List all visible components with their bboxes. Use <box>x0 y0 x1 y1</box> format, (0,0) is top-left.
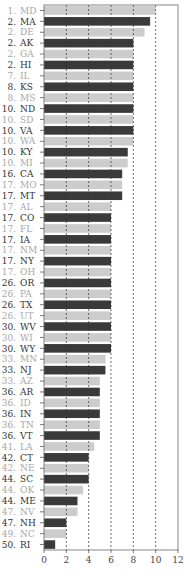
rank-label: 17. <box>2 256 16 266</box>
state-label: WV <box>20 322 36 332</box>
state-label: NC <box>20 529 35 539</box>
state-label: MO <box>20 180 37 190</box>
rank-label: 41. <box>2 442 16 452</box>
rank-label: 10. <box>2 136 16 146</box>
bar-vt <box>44 431 100 440</box>
rank-label: 44. <box>2 485 16 495</box>
rank-label: 36. <box>2 431 16 441</box>
state-label: VA <box>19 126 33 136</box>
state-label: RI <box>20 540 31 550</box>
rank-label: 10. <box>2 147 16 157</box>
state-label: SD <box>20 115 33 125</box>
state-label: NY <box>20 256 35 266</box>
bar-in <box>44 409 100 418</box>
state-label: WA <box>20 136 36 146</box>
state-label: NV <box>20 507 35 517</box>
rank-label: 42. <box>2 463 16 473</box>
bar-al <box>44 202 111 211</box>
bar-tx <box>44 300 111 309</box>
state-label: ME <box>20 496 36 506</box>
state-label: KY <box>20 147 33 157</box>
bar-mt <box>44 191 122 200</box>
bar-nj <box>44 366 105 375</box>
bar-ma <box>44 17 150 26</box>
bar-ar <box>44 388 100 397</box>
state-label: AL <box>19 202 32 212</box>
state-label: MN <box>20 354 37 364</box>
bar-nh <box>44 518 66 527</box>
rank-label: 30. <box>2 333 16 343</box>
bar-mo <box>44 181 122 190</box>
rank-label: 49. <box>2 529 16 539</box>
state-label: KS <box>20 82 33 92</box>
rank-label: 17. <box>2 245 16 255</box>
bar-me <box>44 497 78 506</box>
state-label: DE <box>20 27 34 37</box>
state-label: MA <box>20 17 36 27</box>
state-label: FL <box>20 224 32 234</box>
bar-az <box>44 377 100 386</box>
state-label: NE <box>20 463 34 473</box>
rank-label: 44. <box>2 474 16 484</box>
state-label: SC <box>20 474 33 484</box>
rank-label: 2. <box>7 17 16 27</box>
rank-label: 30. <box>2 322 16 332</box>
bar-ca <box>44 170 122 179</box>
state-label: TX <box>20 300 33 310</box>
rank-label: 30. <box>2 344 16 354</box>
rank-label: 8. <box>7 82 16 92</box>
rank-label: 47. <box>2 507 16 517</box>
rank-label: 42. <box>2 453 16 463</box>
bar-id <box>44 399 100 408</box>
rank-label: 17. <box>2 191 16 201</box>
rank-label: 33. <box>2 376 16 386</box>
bar-or <box>44 279 111 288</box>
rank-label: 26. <box>2 289 16 299</box>
state-label: NJ <box>20 365 32 375</box>
state-label: MS <box>20 93 35 103</box>
state-label: GA <box>20 49 34 59</box>
x-tick-label: 4 <box>86 555 92 565</box>
rank-label: 33. <box>2 354 16 364</box>
state-label: CO <box>20 213 34 223</box>
rank-label: 26. <box>2 300 16 310</box>
x-tick-label: 10 <box>150 555 162 565</box>
x-tick-label: 6 <box>108 555 114 565</box>
bar-md <box>44 6 156 15</box>
rank-label: 16. <box>2 169 16 179</box>
bar-la <box>44 442 94 451</box>
state-label: WY <box>20 344 36 354</box>
rank-label: 17. <box>2 267 16 277</box>
bar-nm <box>44 246 111 255</box>
rank-label: 2. <box>7 38 16 48</box>
x-tick-label: 8 <box>130 555 136 565</box>
rank-label: 47. <box>2 518 16 528</box>
state-label: LA <box>20 442 33 452</box>
rank-label: 17. <box>2 213 16 223</box>
rank-label: 44. <box>2 496 16 506</box>
rank-label: 26. <box>2 311 16 321</box>
rank-label: 36. <box>2 387 16 397</box>
rank-label: 10. <box>2 115 16 125</box>
rank-label: 10. <box>2 158 16 168</box>
state-label: NH <box>20 518 36 528</box>
rank-label: 7. <box>7 71 16 81</box>
bar-oh <box>44 268 111 277</box>
bar-ri <box>44 540 55 549</box>
rank-label: 36. <box>2 420 16 430</box>
bar-tn <box>44 420 100 429</box>
state-label: MD <box>20 6 36 16</box>
state-label: CT <box>20 453 33 463</box>
state-label: UT <box>20 311 34 321</box>
bar-ut <box>44 311 111 320</box>
ranked-bar-chart: 1.MD2.MA2.DE2.AK2.GA2.HI7.IL8.KS8.MS10.N… <box>0 0 184 578</box>
state-label: IL <box>20 71 30 81</box>
bar-ky <box>44 148 128 157</box>
x-tick-label: 0 <box>41 555 47 565</box>
rank-label: 50. <box>2 540 16 550</box>
bar-ok <box>44 486 83 495</box>
bar-wv <box>44 322 111 331</box>
rank-label: 2. <box>7 27 16 37</box>
rank-label: 17. <box>2 180 16 190</box>
state-label: CA <box>20 169 34 179</box>
